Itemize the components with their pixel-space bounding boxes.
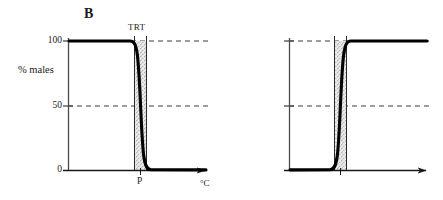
- sigmoid-curve: [290, 41, 427, 170]
- trt-label-b: TRT: [128, 22, 145, 32]
- figure-container: B % males 100 50 0 TRT P °C: [0, 0, 443, 200]
- panel-c: C % males 100 50 0 TRT P °C: [221, 0, 443, 200]
- panel-c-plot: [221, 0, 443, 200]
- panel-letter-b: B: [84, 6, 93, 22]
- panel-b-plot: [0, 0, 222, 200]
- y-tick-label-100-b: 100: [38, 35, 62, 45]
- panel-b: B % males 100 50 0 TRT P °C: [0, 0, 222, 200]
- y-tick-label-50-b: 50: [38, 100, 62, 110]
- x-axis-unit-b: °C: [200, 178, 210, 188]
- pivot-label-b: P: [137, 176, 142, 186]
- y-tick-label-0-b: 0: [38, 164, 62, 174]
- y-axis-label-b: % males: [18, 64, 54, 75]
